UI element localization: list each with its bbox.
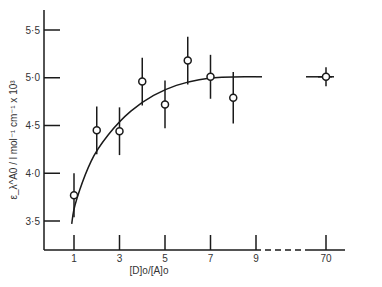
data-point — [139, 78, 146, 85]
y-ticks: 3·54·04·55·05·5 — [26, 25, 60, 227]
y-tick-label: 5·5 — [26, 25, 41, 36]
y-tick-label: 5·0 — [26, 72, 41, 83]
data-point — [323, 73, 330, 80]
data-point — [93, 127, 100, 134]
x-axis-title: [D]o/[A]o — [130, 265, 169, 276]
x-tick-label: 9 — [253, 253, 259, 264]
y-axis-title: ε_λ^A0 / l mol⁻¹ cm⁻¹ x 10³ — [8, 80, 19, 200]
data-point — [116, 128, 123, 135]
data-point — [207, 73, 214, 80]
data-point — [184, 57, 191, 64]
x-tick-label: 3 — [117, 253, 123, 264]
data-point — [230, 94, 237, 101]
data-point — [71, 192, 78, 199]
y-tick-label: 4·0 — [26, 168, 41, 179]
x-tick-label: 70 — [320, 253, 332, 264]
x-tick-label: 7 — [208, 253, 214, 264]
data-points — [71, 37, 335, 217]
fit-line — [72, 77, 256, 224]
x-tick-label: 5 — [162, 253, 168, 264]
y-tick-label: 4·5 — [26, 120, 41, 131]
fit-curve — [72, 77, 332, 224]
y-tick-label: 3·5 — [26, 216, 41, 227]
chart: 3·54·04·55·05·5 1357970 ε_λ^A0 / l mol⁻¹… — [0, 0, 382, 287]
axes — [44, 10, 345, 250]
x-tick-label: 1 — [71, 253, 77, 264]
data-point — [162, 101, 169, 108]
